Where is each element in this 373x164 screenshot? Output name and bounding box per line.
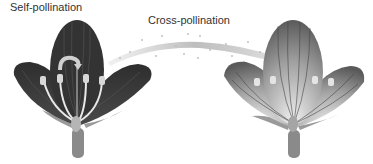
cross-pollination-arrow [108,33,282,66]
left-flower [14,20,152,158]
right-flower [224,20,364,158]
pollination-diagram [0,0,373,164]
